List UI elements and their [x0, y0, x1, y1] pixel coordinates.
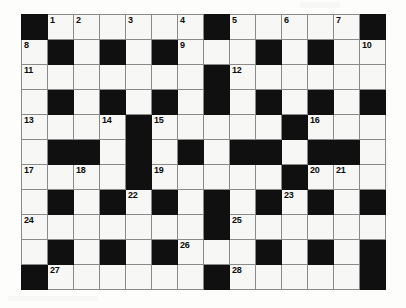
- open-square[interactable]: [152, 140, 178, 165]
- open-square[interactable]: [178, 215, 204, 240]
- open-square[interactable]: [178, 165, 204, 190]
- open-square[interactable]: 22: [126, 190, 152, 215]
- open-square[interactable]: [152, 215, 178, 240]
- open-square[interactable]: [230, 115, 256, 140]
- open-square[interactable]: 21: [334, 165, 360, 190]
- open-square[interactable]: [282, 140, 308, 165]
- open-square[interactable]: [126, 65, 152, 90]
- open-square[interactable]: [308, 65, 334, 90]
- open-square[interactable]: [204, 40, 230, 65]
- open-square[interactable]: [282, 215, 308, 240]
- open-square[interactable]: 6: [282, 15, 308, 40]
- open-square[interactable]: [152, 65, 178, 90]
- open-square[interactable]: [256, 115, 282, 140]
- open-square[interactable]: 2: [74, 15, 100, 40]
- open-square[interactable]: [178, 265, 204, 290]
- open-square[interactable]: [74, 40, 100, 65]
- open-square[interactable]: [282, 90, 308, 115]
- open-square[interactable]: [230, 190, 256, 215]
- open-square[interactable]: 12: [230, 65, 256, 90]
- open-square[interactable]: [126, 40, 152, 65]
- open-square[interactable]: 23: [282, 190, 308, 215]
- open-square[interactable]: [360, 165, 386, 190]
- open-square[interactable]: 3: [126, 15, 152, 40]
- open-square[interactable]: [334, 115, 360, 140]
- open-square[interactable]: [178, 115, 204, 140]
- open-square[interactable]: [282, 40, 308, 65]
- open-square[interactable]: 18: [74, 165, 100, 190]
- open-square[interactable]: [48, 215, 74, 240]
- open-square[interactable]: [282, 240, 308, 265]
- open-square[interactable]: [178, 65, 204, 90]
- open-square[interactable]: [22, 190, 48, 215]
- open-square[interactable]: 9: [178, 40, 204, 65]
- open-square[interactable]: [48, 115, 74, 140]
- open-square[interactable]: [256, 15, 282, 40]
- open-square[interactable]: 15: [152, 115, 178, 140]
- open-square[interactable]: [126, 240, 152, 265]
- open-square[interactable]: 14: [100, 115, 126, 140]
- open-square[interactable]: [334, 240, 360, 265]
- open-square[interactable]: [74, 240, 100, 265]
- open-square[interactable]: [178, 190, 204, 215]
- open-square[interactable]: [48, 65, 74, 90]
- open-square[interactable]: [256, 65, 282, 90]
- open-square[interactable]: [360, 215, 386, 240]
- open-square[interactable]: [178, 90, 204, 115]
- open-square[interactable]: [152, 15, 178, 40]
- open-square[interactable]: [308, 265, 334, 290]
- open-square[interactable]: [22, 140, 48, 165]
- open-square[interactable]: 1: [48, 15, 74, 40]
- open-square[interactable]: [152, 265, 178, 290]
- open-square[interactable]: [230, 165, 256, 190]
- open-square[interactable]: [22, 240, 48, 265]
- open-square[interactable]: [334, 65, 360, 90]
- open-square[interactable]: [74, 65, 100, 90]
- open-square[interactable]: [74, 265, 100, 290]
- open-square[interactable]: [334, 215, 360, 240]
- open-square[interactable]: [256, 165, 282, 190]
- open-square[interactable]: [74, 190, 100, 215]
- open-square[interactable]: [334, 265, 360, 290]
- open-square[interactable]: [256, 265, 282, 290]
- open-square[interactable]: [204, 115, 230, 140]
- open-square[interactable]: 8: [22, 40, 48, 65]
- open-square[interactable]: 19: [152, 165, 178, 190]
- open-square[interactable]: [256, 215, 282, 240]
- open-square[interactable]: 24: [22, 215, 48, 240]
- open-square[interactable]: [360, 65, 386, 90]
- open-square[interactable]: [204, 165, 230, 190]
- open-square[interactable]: 17: [22, 165, 48, 190]
- open-square[interactable]: 20: [308, 165, 334, 190]
- open-square[interactable]: [100, 265, 126, 290]
- open-square[interactable]: [74, 90, 100, 115]
- open-square[interactable]: 26: [178, 240, 204, 265]
- open-square[interactable]: 28: [230, 265, 256, 290]
- open-square[interactable]: [74, 215, 100, 240]
- open-square[interactable]: [100, 165, 126, 190]
- open-square[interactable]: [48, 165, 74, 190]
- open-square[interactable]: [100, 215, 126, 240]
- open-square[interactable]: 27: [48, 265, 74, 290]
- open-square[interactable]: 10: [360, 40, 386, 65]
- open-square[interactable]: [126, 265, 152, 290]
- open-square[interactable]: [282, 65, 308, 90]
- open-square[interactable]: 7: [334, 15, 360, 40]
- open-square[interactable]: [334, 90, 360, 115]
- open-square[interactable]: [204, 240, 230, 265]
- open-square[interactable]: [308, 215, 334, 240]
- open-square[interactable]: [100, 140, 126, 165]
- open-square[interactable]: [204, 140, 230, 165]
- open-square[interactable]: [22, 90, 48, 115]
- open-square[interactable]: [74, 115, 100, 140]
- open-square[interactable]: [126, 215, 152, 240]
- open-square[interactable]: 11: [22, 65, 48, 90]
- open-square[interactable]: [282, 265, 308, 290]
- open-square[interactable]: 13: [22, 115, 48, 140]
- open-square[interactable]: 25: [230, 215, 256, 240]
- open-square[interactable]: [308, 15, 334, 40]
- open-square[interactable]: 16: [308, 115, 334, 140]
- open-square[interactable]: [360, 115, 386, 140]
- open-square[interactable]: [126, 90, 152, 115]
- crossword-grid[interactable]: 1234567891011121314151617181920212223242…: [21, 14, 386, 290]
